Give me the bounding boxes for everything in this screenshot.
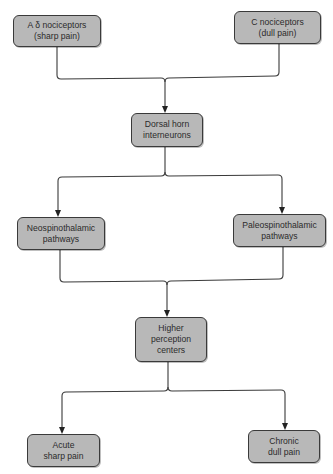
node-chronic-dull-pain: Chronic dull pain — [248, 430, 320, 463]
arrowhead-icon — [282, 423, 288, 430]
node-paleospinothalamic-pathways: Paleospinothalamic pathways — [233, 214, 326, 247]
node-c-nociceptors: C nociceptors (dull pain) — [234, 11, 321, 44]
node-higher-perception-centers: Higher perception centers — [135, 317, 207, 362]
node-neospinothalamic-pathways: Neospinothalamic pathways — [17, 217, 105, 250]
edge-c-to-dorsal — [165, 44, 279, 82]
arrowhead-icon — [59, 427, 65, 434]
node-dorsal-horn-interneurons: Dorsal horn interneurons — [131, 113, 203, 147]
arrowhead-icon — [55, 210, 61, 217]
arrowhead-icon — [279, 207, 285, 214]
node-acute-sharp-pain: Acute sharp pain — [27, 434, 100, 467]
arrowhead-icon — [162, 106, 168, 113]
node-a-delta-nociceptors: A δ nociceptors (sharp pain) — [13, 15, 101, 47]
arrowhead-icon — [164, 310, 170, 317]
edge-a-delta-to-dorsal — [57, 47, 165, 82]
